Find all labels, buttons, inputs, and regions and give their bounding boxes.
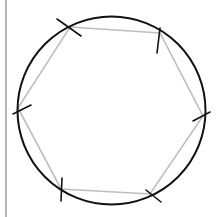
compass-mark-v6 (13, 105, 31, 114)
circumscribed-circle (18, 17, 206, 205)
construction-canvas (0, 0, 222, 217)
compass-mark-v2 (157, 28, 160, 53)
inscribed-hexagon (18, 27, 203, 194)
hexagon-construction-figure (0, 0, 222, 217)
compass-mark-v5 (61, 178, 62, 201)
